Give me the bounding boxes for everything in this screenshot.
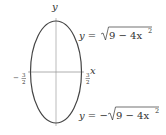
tick-left: − 3 2 (13, 72, 26, 85)
ellipse-diagram: y x − 3 2 3 2 y = 9 − 4x 2 y = − 9 − 4x … (0, 0, 166, 135)
tick-right-den: 2 (86, 79, 90, 85)
equation-bottom: y = − 9 − 4x 2 (78, 107, 159, 121)
tick-left-den: 2 (22, 79, 26, 85)
equation-top: y = 9 − 4x 2 (78, 27, 152, 41)
tick-left-sign: − (13, 74, 19, 82)
equation-top-radicand: 9 − 4x (109, 30, 142, 41)
tick-right: 3 2 (86, 72, 91, 85)
tick-left-num: 3 (22, 72, 26, 78)
tick-right-num: 3 (86, 72, 90, 78)
equation-bottom-radicand: 9 − 4x (116, 110, 149, 121)
y-axis-label: y (51, 1, 58, 12)
equation-top-exp: 2 (148, 27, 152, 35)
equation-bottom-lhs: y = − (78, 110, 108, 121)
equation-bottom-exp: 2 (155, 107, 159, 115)
x-axis-label: x (90, 65, 96, 76)
equation-top-lhs: y = (78, 30, 96, 41)
